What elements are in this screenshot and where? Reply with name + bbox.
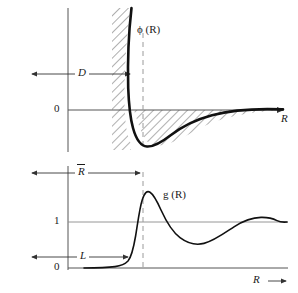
lower-x-axis-label: R bbox=[253, 274, 260, 285]
lower-y-tick-one: 1 bbox=[54, 215, 60, 226]
radial-distribution-curve bbox=[84, 192, 287, 268]
lower-y-tick-zero: 0 bbox=[54, 261, 60, 272]
upper-x-axis-label: R bbox=[281, 113, 288, 124]
figure-container: ϕ (R) 0 R D R g (R) 1 0 L R bbox=[0, 0, 298, 293]
dimension-label-l: L bbox=[77, 250, 89, 261]
figure-canvas bbox=[0, 0, 298, 293]
dimension-label-rbar-text: R bbox=[78, 166, 85, 177]
dimension-label-rbar: R bbox=[75, 166, 88, 177]
dimension-label-d: D bbox=[75, 67, 89, 78]
lower-curve-label: g (R) bbox=[163, 189, 186, 200]
upper-curve-label: ϕ (R) bbox=[137, 24, 160, 35]
upper-y-tick-zero: 0 bbox=[54, 103, 60, 114]
